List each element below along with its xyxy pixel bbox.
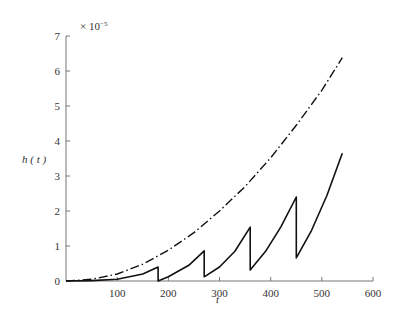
envelope-dashdot-line xyxy=(66,58,342,281)
y-ticks: 01234567 xyxy=(55,30,71,287)
x-tick-label: 500 xyxy=(314,287,331,299)
x-tick-label: 400 xyxy=(262,287,279,299)
y-axis-label: h ( t ) xyxy=(22,153,46,166)
y-tick-label: 2 xyxy=(55,205,61,217)
y-tick-label: 1 xyxy=(55,240,61,252)
series xyxy=(66,58,342,281)
y-tick-label: 4 xyxy=(55,135,61,147)
y-tick-label: 0 xyxy=(55,275,61,287)
x-tick-label: 100 xyxy=(109,287,126,299)
x-tick-label: 600 xyxy=(365,287,382,299)
x-tick-label: 300 xyxy=(211,287,228,299)
y-tick-label: 3 xyxy=(55,170,61,182)
x-ticks: 100200300400500600 xyxy=(109,277,382,299)
y-tick-label: 7 xyxy=(55,30,61,42)
y-tick-label: 6 xyxy=(55,65,61,77)
axes xyxy=(66,36,373,281)
x-tick-label: 200 xyxy=(160,287,177,299)
y-exponent-label: × 10−5 xyxy=(80,20,108,32)
y-tick-label: 5 xyxy=(55,100,61,112)
sawtooth-line xyxy=(66,153,342,281)
chart: 01234567 100200300400500600 × 10−5 h ( t… xyxy=(0,0,402,322)
